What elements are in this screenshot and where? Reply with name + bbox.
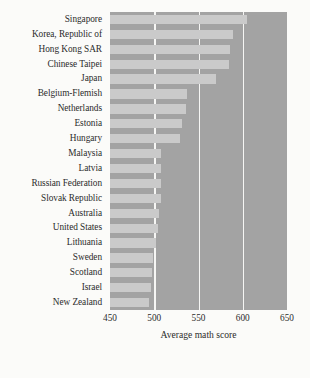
bar (110, 194, 161, 203)
bar-row (110, 146, 287, 161)
category-label: Lithuania (0, 236, 106, 251)
category-label: Australia (0, 206, 106, 221)
bar-row (110, 57, 287, 72)
bar-row (110, 27, 287, 42)
x-tick-label: 450 (103, 313, 117, 323)
x-axis-title: Average math score (110, 329, 287, 340)
bar-row (110, 12, 287, 27)
x-tick-label: 650 (280, 313, 294, 323)
bar-series (110, 12, 287, 310)
bar (110, 119, 182, 128)
bar-row (110, 236, 287, 251)
bar (110, 283, 151, 292)
bar-row (110, 295, 287, 310)
category-label: Russian Federation (0, 176, 106, 191)
bar (110, 209, 159, 218)
bar-row (110, 101, 287, 116)
x-tick-label: 550 (192, 313, 206, 323)
bar-row (110, 116, 287, 131)
bar (110, 104, 186, 113)
category-label: Slovak Republic (0, 191, 106, 206)
bar (110, 45, 230, 54)
category-label: Estonia (0, 116, 106, 131)
category-label: Singapore (0, 12, 106, 27)
bar-row (110, 191, 287, 206)
bar-row (110, 176, 287, 191)
bar-row (110, 161, 287, 176)
bar (110, 164, 161, 173)
category-label: Sweden (0, 251, 106, 266)
bar (110, 60, 229, 69)
category-label: Belgium-Flemish (0, 87, 106, 102)
bar (110, 179, 161, 188)
bar-row (110, 72, 287, 87)
category-label: Korea, Republic of (0, 27, 106, 42)
bar (110, 224, 158, 233)
bar-row (110, 87, 287, 102)
bar-row (110, 42, 287, 57)
bar-row (110, 131, 287, 146)
category-label: New Zealand (0, 295, 106, 310)
category-label: Japan (0, 72, 106, 87)
bar (110, 134, 180, 143)
bar-row (110, 206, 287, 221)
bar (110, 253, 153, 262)
x-tick-label: 600 (236, 313, 250, 323)
bar (110, 30, 233, 39)
bar-row (110, 221, 287, 236)
category-label: Hungary (0, 131, 106, 146)
bar (110, 15, 247, 24)
category-label: Hong Kong SAR (0, 42, 106, 57)
bar-row (110, 251, 287, 266)
x-tick-label: 500 (147, 313, 161, 323)
bar (110, 89, 187, 98)
bar-row (110, 265, 287, 280)
category-label: Chinese Taipei (0, 57, 106, 72)
category-label: Malaysia (0, 146, 106, 161)
bar-row (110, 280, 287, 295)
category-label: Netherlands (0, 101, 106, 116)
bar (110, 74, 216, 83)
category-label: United States (0, 221, 106, 236)
bar-chart: SingaporeKorea, Republic ofHong Kong SAR… (0, 0, 310, 378)
bar (110, 238, 156, 247)
x-axis-tick-labels: 450500550600650 (110, 313, 287, 327)
category-axis-labels: SingaporeKorea, Republic ofHong Kong SAR… (0, 12, 106, 310)
bar (110, 298, 149, 307)
category-label: Scotland (0, 265, 106, 280)
bar (110, 149, 161, 158)
plot-area (110, 12, 287, 310)
category-label: Latvia (0, 161, 106, 176)
category-label: Israel (0, 280, 106, 295)
bar (110, 268, 152, 277)
